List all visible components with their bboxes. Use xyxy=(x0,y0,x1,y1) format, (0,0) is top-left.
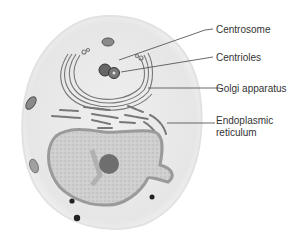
nucleolus xyxy=(99,154,119,174)
label-endoplasmic-reticulum-line1: Endoplasmic xyxy=(216,115,273,126)
granule xyxy=(69,198,74,203)
label-centrosome: Centrosome xyxy=(216,24,270,35)
granule xyxy=(74,215,80,221)
granule xyxy=(150,195,155,200)
label-golgi-apparatus: Golgi apparatus xyxy=(216,83,287,94)
label-centrioles: Centrioles xyxy=(216,52,261,63)
label-endoplasmic-reticulum-line2: reticulum xyxy=(216,127,257,138)
mitochondrion xyxy=(102,38,114,46)
